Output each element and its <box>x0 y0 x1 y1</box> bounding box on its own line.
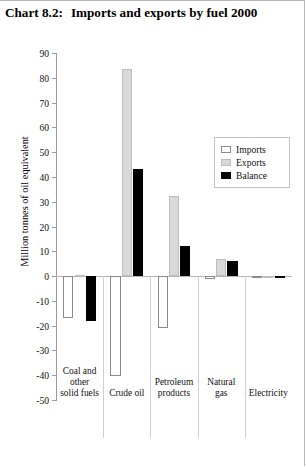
plot-area: 9080706050403020100-10-20-30-40-50Coal a… <box>56 53 292 400</box>
legend-item-exports: Exports <box>221 156 283 169</box>
legend-swatch-balance-icon <box>221 172 231 179</box>
y-axis-tick <box>52 227 57 228</box>
chart-legend: Imports Exports Balance <box>214 137 290 188</box>
x-axis-category-label-line: gas <box>198 388 245 399</box>
y-axis-tick <box>52 251 57 252</box>
x-axis-category-label-line: products <box>150 388 197 399</box>
bar-exports-2 <box>169 196 179 277</box>
x-axis-category-label-line: solid fuels <box>56 388 103 399</box>
y-axis-tick-label: -20 <box>36 320 49 331</box>
x-axis-category-label-line: Electricity <box>245 388 292 399</box>
legend-swatch-exports-icon <box>221 159 231 166</box>
x-axis-category-label: Coal andothersolid fuels <box>56 366 103 399</box>
y-axis-tick-label: 30 <box>39 196 49 207</box>
y-axis-tick <box>52 301 57 302</box>
y-axis-tick <box>52 127 57 128</box>
bar-balance-2 <box>180 246 190 276</box>
y-axis-tick-label: 70 <box>39 97 49 108</box>
y-axis-tick <box>52 103 57 104</box>
legend-item-imports: Imports <box>221 143 283 156</box>
y-axis-tick-label: -50 <box>36 395 49 406</box>
y-axis-tick <box>52 400 57 401</box>
y-axis-tick-label: 10 <box>39 246 49 257</box>
legend-label-balance: Balance <box>236 170 267 181</box>
y-axis-tick <box>52 152 57 153</box>
bar-exports-4 <box>263 276 273 278</box>
category-separator <box>150 276 151 438</box>
x-axis-category-label-line: Coal and <box>56 366 103 377</box>
y-axis-tick-label: 40 <box>39 171 49 182</box>
y-axis-tick-label: -10 <box>36 295 49 306</box>
bar-imports-3 <box>205 276 215 278</box>
bar-imports-1 <box>110 276 120 376</box>
bar-balance-4 <box>275 276 285 278</box>
x-axis-category-label: Electricity <box>245 388 292 399</box>
x-axis-category-label-line: Petroleum <box>150 377 197 388</box>
bar-balance-3 <box>227 261 237 276</box>
bar-exports-0 <box>75 275 85 277</box>
y-axis-tick <box>52 350 57 351</box>
legend-swatch-imports-icon <box>221 146 231 153</box>
y-axis-tick-label: 90 <box>39 48 49 59</box>
chart-title-text: Imports and exports by fuel 2000 <box>71 5 257 22</box>
category-separator <box>103 276 104 438</box>
x-axis-category-label: Petroleumproducts <box>150 377 197 399</box>
x-axis-category-label: Crude oil <box>103 388 150 399</box>
y-axis-tick-label: -30 <box>36 345 49 356</box>
y-axis-tick-label: 20 <box>39 221 49 232</box>
y-axis-tick-label: 60 <box>39 122 49 133</box>
legend-item-balance: Balance <box>221 169 283 182</box>
bar-exports-3 <box>216 259 226 276</box>
y-axis-tick <box>52 78 57 79</box>
bar-imports-0 <box>63 276 73 318</box>
x-axis-category-label: Naturalgas <box>198 377 245 399</box>
legend-label-imports: Imports <box>236 144 266 155</box>
y-axis-tick-label: 80 <box>39 72 49 83</box>
y-axis-tick <box>52 177 57 178</box>
bar-exports-1 <box>122 69 132 276</box>
legend-label-exports: Exports <box>236 157 266 168</box>
bar-imports-4 <box>252 276 262 278</box>
bar-balance-1 <box>133 169 143 276</box>
x-axis-category-label-line: other <box>56 377 103 388</box>
y-axis-tick <box>52 326 57 327</box>
chart-title: Chart 8.2: Imports and exports by fuel 2… <box>5 5 301 22</box>
category-separator <box>198 276 199 438</box>
y-axis-title: Million tonnes of oil equivalent <box>19 102 30 302</box>
bar-balance-0 <box>86 276 96 321</box>
y-axis-tick <box>52 202 57 203</box>
y-axis-tick <box>52 53 57 54</box>
y-axis-tick-label: 50 <box>39 147 49 158</box>
category-separator <box>245 276 246 438</box>
y-axis-tick-label: 0 <box>44 271 49 282</box>
y-axis-tick-label: -40 <box>36 370 49 381</box>
chart-title-number: Chart 8.2: <box>5 5 63 21</box>
x-axis-category-label-line: Natural <box>198 377 245 388</box>
x-axis-category-label-line: Crude oil <box>103 388 150 399</box>
bar-imports-2 <box>158 276 168 328</box>
